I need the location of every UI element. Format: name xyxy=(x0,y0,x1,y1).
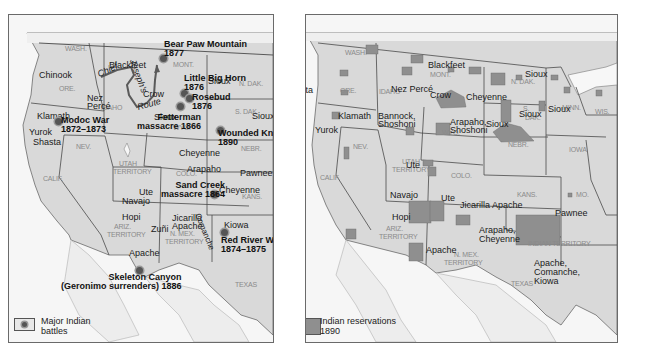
tribe-label: Sioux xyxy=(252,111,274,121)
state-label: TEXAS xyxy=(511,280,533,288)
tribe-label: Arapaho xyxy=(187,164,221,174)
state-label: TEXAS xyxy=(235,281,257,289)
legend-reservations-label: Indian reservations 1890 xyxy=(320,316,396,336)
battle-year: massacre 1866 xyxy=(137,122,201,131)
tribe-label: Yurok xyxy=(315,125,338,135)
battle-year: massacre 1864 xyxy=(161,190,225,199)
battle-dot-icon xyxy=(177,103,184,110)
state-label: MO. xyxy=(576,191,589,199)
tribe-label: Ute xyxy=(406,160,420,170)
state-label: MONT. xyxy=(173,61,194,69)
state-label: N. DAK. xyxy=(511,78,535,86)
battle-label: Sand Creekmassacre 1864 xyxy=(161,181,225,199)
state-label: WASH. xyxy=(65,45,87,53)
state-label: N. MEX. xyxy=(170,230,195,238)
tribe-label: Yurok xyxy=(29,127,52,137)
state-label: TERRITORY xyxy=(379,233,417,241)
reservations-map-panel: WASH.ORE.IDAHOMONT.N. DAK.S.DAK.MINN.WIS… xyxy=(305,14,618,343)
tribe-label: Shoshoni xyxy=(378,119,416,129)
state-label: CALIF. xyxy=(320,174,340,182)
tribe-label: Cheyenne xyxy=(466,92,507,102)
legend-line-1: Indian reservations xyxy=(320,316,396,326)
tribe-label: Sioux xyxy=(486,119,509,129)
tribe-label: Apache xyxy=(426,245,457,255)
tribe-label: Hopi xyxy=(392,212,411,222)
battle-year: 1876 xyxy=(192,102,231,111)
state-label: MONT. xyxy=(430,71,451,79)
battle-year: 1872–1873 xyxy=(61,125,109,134)
battle-year: (Geronimo surrenders) 1886 xyxy=(61,282,182,291)
tribe-label: Crow xyxy=(430,90,451,100)
legend-line-2: battles xyxy=(41,326,91,336)
battle-label: Skeleton Canyon(Geronimo surrenders) 188… xyxy=(61,273,182,291)
battle-label: Red River War1874–1875 xyxy=(221,236,274,254)
tribe-label: Chinook xyxy=(39,70,72,80)
state-label: COLO. xyxy=(451,172,472,180)
battle-year: 1877 xyxy=(164,49,247,58)
tribe-label: Hopi xyxy=(122,212,141,222)
tribe-label: Cheyenne xyxy=(179,148,220,158)
tribe-label: Kiowa xyxy=(224,220,249,230)
tribe-label: Navajo xyxy=(390,190,418,200)
state-label: ORE. xyxy=(340,87,356,95)
state-label: NEBR. xyxy=(508,141,528,149)
tribe-label: Nez Percé xyxy=(391,84,433,94)
state-label: TERRITORY xyxy=(165,238,203,246)
state-label: UTAH xyxy=(119,160,137,168)
state-label: CALIF. xyxy=(43,175,63,183)
battle-label: Rosebud1876 xyxy=(192,93,231,111)
tribe-label: Zuñi xyxy=(151,224,169,234)
legend-battle-swatch xyxy=(14,318,35,331)
legend-line-2: 1890 xyxy=(320,326,396,336)
tribe-label: Cheyenne xyxy=(479,234,520,244)
battle-label: Fettermanmassacre 1866 xyxy=(137,113,201,131)
tribe-label: Kiowa xyxy=(534,276,559,286)
reservation-swatch-icon xyxy=(305,318,321,335)
tribe-label: Apache xyxy=(129,248,160,258)
state-label: KANS. xyxy=(517,191,537,199)
state-label: N. MEX. xyxy=(454,251,479,259)
legend-battles-label: Major Indian battles xyxy=(41,316,91,336)
state-label: INDIAN TERRITORY xyxy=(528,240,591,248)
tribe-label: Navajo xyxy=(122,196,150,206)
tribe-label: Sioux xyxy=(548,104,571,114)
tribe-label: Pawnee xyxy=(240,168,273,178)
battle-year: 1876 xyxy=(184,83,246,92)
tribe-label: Shasta xyxy=(33,137,61,147)
tribe-label: Percé xyxy=(87,101,111,111)
battle-dot-icon xyxy=(22,322,27,327)
tribe-label: Blackfeet xyxy=(428,60,465,70)
tribe-label: Pawnee xyxy=(555,208,588,218)
battle-label: Bear Paw Mountain1877 xyxy=(164,40,247,58)
battles-map-panel: WASH.ORE.IDAHOMONT.N. DAK.S. DAK.WYO.NEV… xyxy=(8,14,274,343)
state-label: IOWA xyxy=(569,146,587,154)
battle-year: 1874–1875 xyxy=(221,245,274,254)
state-label: NEV. xyxy=(353,143,368,151)
state-label: WIS. xyxy=(595,108,609,116)
tribe-label: Shoshoni xyxy=(450,125,488,135)
state-label: TERRITORY xyxy=(113,168,151,176)
tribe-label: Ute xyxy=(441,193,455,203)
state-label: NEV. xyxy=(76,143,91,151)
tribe-label: Jicarilla Apache xyxy=(460,200,523,210)
state-label: ARIZ. xyxy=(114,223,131,231)
tribe-label: Cheyenne xyxy=(219,185,260,195)
tribe-label: Klamath xyxy=(338,111,371,121)
battle-label: Wounded Knee1890 xyxy=(218,129,274,147)
tribe-label: Sioux xyxy=(525,69,548,79)
state-label: WASH. xyxy=(345,49,367,57)
battle-year: 1890 xyxy=(218,138,274,147)
state-label: ARIZ. xyxy=(386,225,403,233)
tribe-label: Shasta xyxy=(305,85,313,95)
battle-label: Little Big Horn1876 xyxy=(184,74,246,92)
state-label: TERRITORY xyxy=(444,259,482,267)
battle-label: Modoc War1872–1873 xyxy=(61,116,109,134)
legend-line-1: Major Indian xyxy=(41,316,91,326)
tribe-label: Sioux xyxy=(519,109,542,119)
state-label: TERRITORY xyxy=(107,231,145,239)
state-label: ORE. xyxy=(59,85,75,93)
